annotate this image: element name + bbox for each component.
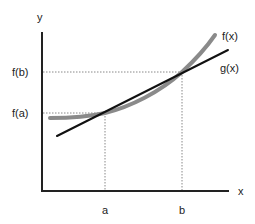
secant-line-diagram: y x f(b) f(a) a b f(x) g(x) <box>0 0 255 224</box>
tick-label-b: b <box>179 204 185 216</box>
tick-label-a: a <box>102 204 109 216</box>
y-axis-label: y <box>37 11 43 23</box>
g-line <box>57 50 228 136</box>
g-line-label: g(x) <box>220 62 239 74</box>
tick-label-fb: f(b) <box>12 66 29 78</box>
f-curve-label: f(x) <box>222 30 238 42</box>
tick-label-fa: f(a) <box>12 107 29 119</box>
x-axis-label: x <box>238 185 244 197</box>
f-curve <box>50 35 215 118</box>
